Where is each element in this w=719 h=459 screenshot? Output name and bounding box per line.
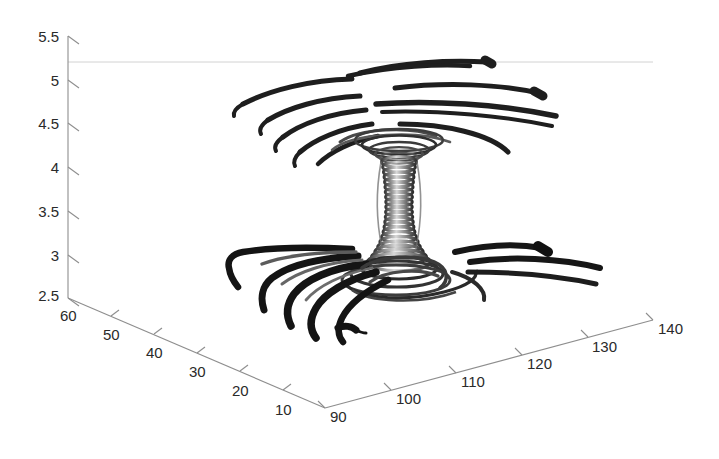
y-tick-label: 20 [232,382,249,399]
streamline-lower [468,272,596,284]
z-tick-label: 4 [51,159,59,176]
y-axis-tick-labels: 60 50 40 30 20 10 [60,307,292,418]
streamline-upper-hook [275,137,283,151]
z-axis-ticks [68,36,79,306]
streamline-upper-hook [294,152,300,166]
z-tick-label: 5.5 [38,28,59,45]
streamline-plot: 5.5 5 4.5 4 3.5 3 2.5 60 50 40 30 20 10 [0,0,719,459]
z-tick-label: 5 [51,72,59,89]
z-tick-label: 3 [51,247,59,264]
y-tick-label: 10 [275,401,292,418]
x-tick-label: 110 [461,373,485,390]
x-tick-label: 140 [658,320,683,337]
y-tick-label: 40 [146,344,163,361]
streamline-lower [452,272,484,300]
z-tick-label: 2.5 [38,287,59,304]
z-tick-label: 4.5 [38,115,59,132]
streamline-upper [400,124,508,152]
x-tick-label: 130 [592,338,617,355]
streamline-upper [348,65,470,76]
streamline-upper [395,85,538,93]
figure-canvas: 5.5 5 4.5 4 3.5 3 2.5 60 50 40 30 20 10 [0,0,719,459]
y-tick-label: 60 [60,307,77,324]
streamline-lower-tip [538,246,548,252]
streamline-upper-tip [485,60,492,64]
isolated-fragment [338,326,366,333]
y-tick-label: 50 [103,326,120,343]
z-tick-label: 3.5 [38,203,59,220]
streamline-upper [268,96,360,120]
streamline-upper [283,110,366,137]
streamline-lower [470,259,600,268]
streamline-lower [455,245,542,252]
x-tick-label: 120 [527,355,552,372]
x-axis-ticks [318,313,653,408]
z-axis-tick-labels: 5.5 5 4.5 4 3.5 3 2.5 [38,28,59,304]
vortex-core-helix [368,157,431,271]
streamline-upper-hook [260,120,268,134]
x-tick-label: 100 [396,390,421,407]
x-axis-line [325,320,653,408]
y-tick-label: 30 [189,363,206,380]
x-tick-label: 90 [330,408,347,425]
x-axis-tick-labels: 90 100 110 120 130 140 [330,320,683,425]
streamline-upper-tip [534,91,543,96]
streamline-upper-hook [234,104,243,116]
